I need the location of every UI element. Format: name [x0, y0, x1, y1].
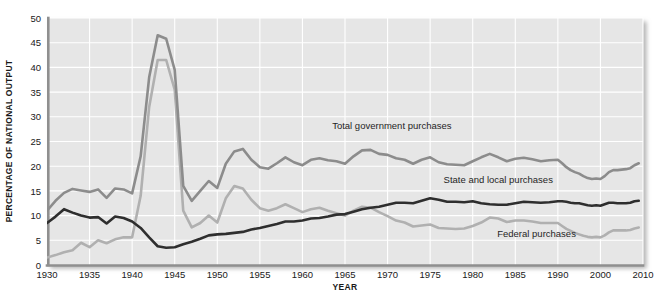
x-tick-1985: 1985	[505, 269, 526, 280]
x-tick-1930: 1930	[36, 269, 57, 280]
chart-figure: 05101520253035404550 1930193519401945195…	[0, 0, 669, 299]
y-axis-title: PERCENTAGE OF NATIONAL OUTPUT	[4, 59, 14, 222]
x-tick-1955: 1955	[249, 269, 270, 280]
x-tick-1970: 1970	[377, 269, 398, 280]
x-tick-1975: 1975	[420, 269, 441, 280]
y-tick-35: 35	[30, 87, 41, 98]
series-label-state-and-local-purchases: State and local purchases	[444, 174, 554, 185]
y-tick-5: 5	[36, 235, 41, 246]
x-tick-2010: 2010	[632, 269, 653, 280]
x-axis-title: YEAR	[333, 282, 358, 292]
x-tick-1935: 1935	[79, 269, 100, 280]
x-tick-1980: 1980	[462, 269, 483, 280]
y-tick-15: 15	[30, 186, 41, 197]
x-tick-1990: 1990	[547, 269, 568, 280]
x-tick-2000: 2000	[590, 269, 611, 280]
y-tick-labels: 05101520253035404550	[30, 13, 41, 271]
y-tick-45: 45	[30, 37, 41, 48]
y-tick-30: 30	[30, 111, 41, 122]
y-tick-10: 10	[30, 210, 41, 221]
line-chart: 05101520253035404550 1930193519401945195…	[0, 0, 669, 299]
y-tick-50: 50	[30, 13, 41, 24]
x-tick-1940: 1940	[122, 269, 143, 280]
y-tick-40: 40	[30, 62, 41, 73]
x-tick-1965: 1965	[334, 269, 355, 280]
x-tick-1950: 1950	[207, 269, 228, 280]
x-tick-labels: 1930193519401945195019551960196519701975…	[36, 269, 653, 280]
series-label-federal-purchases: Federal purchases	[497, 228, 576, 239]
y-tick-20: 20	[30, 161, 41, 172]
x-tick-1960: 1960	[292, 269, 313, 280]
x-tick-1945: 1945	[164, 269, 185, 280]
y-tick-25: 25	[30, 136, 41, 147]
series-label-total-government-purchases: Total government purchases	[332, 120, 452, 131]
